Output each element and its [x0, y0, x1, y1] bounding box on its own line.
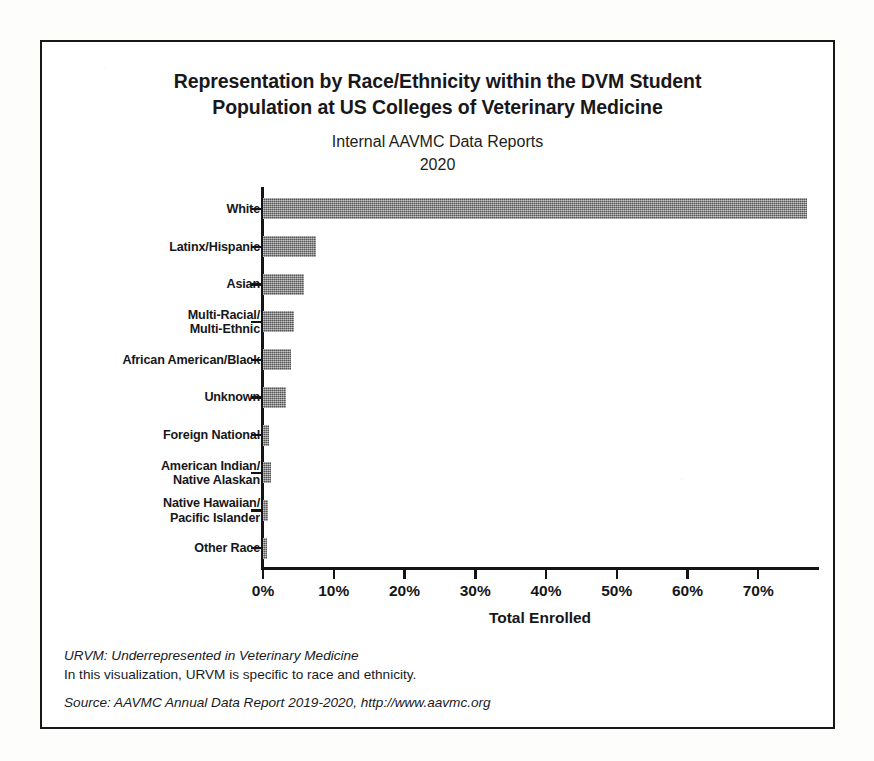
category-label-line: Foreign National [50, 428, 260, 443]
x-axis-tick [545, 569, 547, 579]
category-label: Other Race [50, 541, 260, 556]
x-axis-tick [403, 569, 405, 579]
category-label-line: White [50, 202, 260, 217]
category-label: African American/Black [50, 352, 260, 367]
category-label-line: African American/Black [50, 352, 260, 367]
x-axis-tick [262, 569, 264, 579]
category-label: Asian [50, 277, 260, 292]
category-label-line: American Indian/ [50, 458, 260, 473]
bar [263, 236, 316, 257]
bar-row: African American/Black [42, 341, 837, 379]
category-label: White [50, 202, 260, 217]
y-axis-tick [251, 208, 262, 210]
bar-row: Unknown [42, 379, 837, 417]
category-label-line: Multi-Racial/ [50, 307, 260, 322]
bar [263, 425, 269, 446]
category-label-line: Native Alaskan [50, 473, 260, 488]
x-axis-tick-label: 60% [652, 582, 722, 600]
x-axis-line [261, 567, 819, 570]
bar [263, 198, 807, 219]
x-axis-tick-label: 10% [299, 582, 369, 600]
footnotes: URVM: Underrepresented in Veterinary Med… [64, 646, 784, 712]
y-axis-tick [251, 472, 262, 474]
bar [263, 462, 271, 483]
footnote-urvm-note: In this visualization, URVM is specific … [64, 665, 784, 684]
bar-row: Asian [42, 265, 837, 303]
x-axis-tick [757, 569, 759, 579]
footnote-urvm-definition: URVM: Underrepresented in Veterinary Med… [64, 646, 784, 665]
y-axis-tick [251, 509, 262, 511]
x-axis-tick [474, 569, 476, 579]
category-label-line: Asian [50, 277, 260, 292]
category-label-line: Native Hawaiian/ [50, 496, 260, 511]
category-label-line: Pacific Islander [50, 510, 260, 525]
category-label: American Indian/Native Alaskan [50, 458, 260, 487]
category-label: Latinx/Hispanic [50, 239, 260, 254]
category-label-line: Multi-Ethnic [50, 322, 260, 337]
bar [263, 311, 294, 332]
y-axis-tick [251, 434, 262, 436]
category-label-line: Unknown [50, 390, 260, 405]
x-axis-label: Total Enrolled [261, 609, 819, 627]
bar-row: Native Hawaiian/Pacific Islander [42, 492, 837, 530]
bar [263, 500, 268, 521]
y-axis-tick [251, 359, 262, 361]
chart-frame-border: Representation by Race/Ethnicity within … [40, 40, 835, 729]
x-axis-tick-label: 30% [440, 582, 510, 600]
bar-row: Latinx/Hispanic [42, 228, 837, 266]
category-label: Foreign National [50, 428, 260, 443]
bar [263, 349, 291, 370]
bar-row: Foreign National [42, 416, 837, 454]
x-axis-tick-label: 70% [723, 582, 793, 600]
x-axis-tick-label: 40% [511, 582, 581, 600]
y-axis-tick [251, 321, 262, 323]
x-axis-tick-label: 20% [369, 582, 439, 600]
plot-area: WhiteLatinx/HispanicAsianMulti-Racial/Mu… [42, 42, 837, 731]
bar [263, 538, 267, 559]
x-axis-tick [333, 569, 335, 579]
x-axis-tick [616, 569, 618, 579]
bar-row: Other Race [42, 529, 837, 567]
y-axis-tick [251, 246, 262, 248]
x-axis-tick-label: 0% [228, 582, 298, 600]
bar-row: White [42, 190, 837, 228]
footnote-source: Source: AAVMC Annual Data Report 2019-20… [64, 693, 784, 712]
y-axis-tick [251, 547, 262, 549]
x-axis-tick-label: 50% [582, 582, 652, 600]
x-axis-tick [686, 569, 688, 579]
y-axis-tick [251, 283, 262, 285]
category-label-line: Other Race [50, 541, 260, 556]
bar [263, 274, 304, 295]
scanned-page: Representation by Race/Ethnicity within … [0, 0, 874, 761]
y-axis-tick [251, 396, 262, 398]
category-label-line: Latinx/Hispanic [50, 239, 260, 254]
category-label: Multi-Racial/Multi-Ethnic [50, 307, 260, 336]
bar [263, 387, 286, 408]
category-label: Native Hawaiian/Pacific Islander [50, 496, 260, 525]
category-label: Unknown [50, 390, 260, 405]
bar-row: American Indian/Native Alaskan [42, 454, 837, 492]
bar-row: Multi-Racial/Multi-Ethnic [42, 303, 837, 341]
